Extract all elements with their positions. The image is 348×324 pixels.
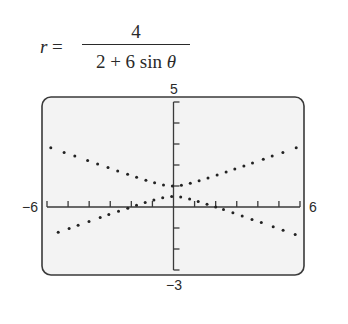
plot-dot: [171, 185, 174, 188]
plot-dot: [68, 227, 71, 230]
plot-dot: [153, 181, 156, 184]
plot-dot: [126, 207, 129, 210]
equation-r: r: [40, 36, 48, 57]
plot-dot: [57, 231, 60, 234]
plot-dot: [188, 198, 191, 201]
equation-denominator: 2 + 6 sin θ: [96, 51, 176, 72]
plot-dot: [162, 183, 165, 186]
plot-dot: [107, 166, 110, 169]
plot-dot: [144, 179, 147, 182]
plot-dot: [216, 174, 219, 177]
plot-dot: [222, 208, 225, 211]
plot-dot: [262, 158, 265, 161]
plot-dot: [135, 176, 138, 179]
plot-dot: [152, 198, 155, 201]
plot-dot: [107, 213, 110, 216]
plot-dot: [161, 196, 164, 199]
equation: r = 4 2 + 6 sin θ: [40, 21, 190, 72]
plot-dot: [99, 216, 102, 219]
plot-dot: [231, 211, 234, 214]
plot-dot: [241, 215, 244, 218]
plot-dot: [281, 151, 284, 154]
plot-dot: [294, 233, 297, 236]
plot-dot: [88, 220, 91, 223]
plot-dot: [198, 179, 201, 182]
plot-dot: [189, 182, 192, 185]
plot-dot: [242, 164, 245, 167]
plot-dot: [117, 210, 120, 213]
xmax-label: 6: [309, 199, 317, 215]
plot-dot: [86, 159, 89, 162]
plot-dot: [126, 173, 129, 176]
plot-dot: [282, 229, 285, 232]
plot-dot: [251, 161, 254, 164]
equation-numerator: 4: [131, 21, 141, 42]
plot-dot: [225, 171, 228, 174]
plot-dot: [96, 163, 99, 166]
plot-dot: [144, 201, 147, 204]
figure: r = 4 2 + 6 sin θ 5 −3 −6 6: [0, 0, 348, 324]
plot-dot: [233, 168, 236, 171]
ymin-label: −3: [166, 277, 182, 293]
plot-dot: [179, 196, 182, 199]
plot-dot: [197, 200, 200, 203]
plot-dot: [260, 221, 263, 224]
plot-dot: [295, 146, 298, 149]
plot-dot: [49, 146, 52, 149]
plot-dot: [116, 169, 119, 172]
ymax-label: 5: [170, 81, 178, 97]
plot-dot: [77, 224, 80, 227]
plot-dot: [272, 225, 275, 228]
equation-equals: =: [52, 36, 63, 57]
plot-dot: [207, 177, 210, 180]
plot-dot: [170, 195, 173, 198]
plot-dot: [206, 203, 209, 206]
xmin-label: −6: [22, 199, 38, 215]
plot-dot: [251, 218, 254, 221]
plot-dot: [271, 155, 274, 158]
plot-dot: [180, 184, 183, 187]
plot-dot: [214, 206, 217, 209]
plot-dot: [135, 204, 138, 207]
plot-dot: [73, 155, 76, 158]
plot-dot: [63, 151, 66, 154]
